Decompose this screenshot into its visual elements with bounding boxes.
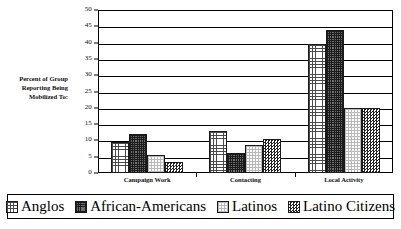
x-axis-tick-label: Contacting (230, 177, 261, 184)
bar-group (196, 10, 294, 173)
y-axis-tick-label: 45 (85, 23, 92, 30)
bar (147, 155, 165, 173)
bar (326, 30, 344, 173)
y-axis-tick-label: 10 (85, 137, 92, 144)
bar-chart (98, 10, 393, 173)
legend-swatch-icon (217, 201, 229, 213)
chart-legend: AnglosAfrican-AmericansLatinosLatino Cit… (7, 194, 394, 219)
bar (344, 108, 362, 173)
bar (165, 162, 183, 173)
legend-swatch-icon (288, 201, 300, 213)
y-axis-tick-label: 30 (85, 72, 92, 79)
x-axis-tick-label: Local Activity (324, 177, 363, 184)
y-axis-tick-label: 0 (88, 169, 92, 176)
bar (111, 142, 129, 173)
y-axis-tick-label: 15 (85, 121, 92, 128)
bar (129, 134, 147, 173)
legend-item[interactable]: Anglos (6, 199, 64, 214)
x-axis-tick-mark (196, 173, 197, 177)
x-axis-tick-mark (295, 173, 296, 177)
bar (209, 131, 227, 173)
legend-label: African-Americans (90, 199, 206, 214)
legend-label: Latino Citizens (303, 199, 395, 214)
legend-swatch-icon (6, 201, 18, 213)
legend-item[interactable]: African-Americans (75, 199, 206, 214)
bar (245, 145, 263, 173)
y-axis: 05101520253035404550 (0, 10, 98, 173)
x-axis: Campaign WorkContactingLocal Activity (98, 177, 393, 189)
bar (263, 139, 281, 173)
bars-layer (98, 10, 393, 173)
y-axis-tick-label: 25 (85, 88, 92, 95)
bar-group (98, 10, 196, 173)
legend-label: Latinos (232, 199, 277, 214)
y-axis-tick-label: 35 (85, 55, 92, 62)
y-axis-tick-label: 50 (85, 6, 92, 13)
x-axis-tick-label: Campaign Work (124, 177, 171, 184)
y-axis-tick-label: 40 (85, 39, 92, 46)
legend-swatch-icon (75, 201, 87, 213)
y-axis-tick-label: 5 (88, 153, 92, 160)
legend-label: Anglos (21, 199, 64, 214)
bar (308, 44, 326, 173)
legend-item[interactable]: Latino Citizens (288, 199, 395, 214)
legend-item[interactable]: Latinos (217, 199, 277, 214)
bar (362, 108, 380, 173)
bar (227, 153, 245, 173)
bar-group (295, 10, 393, 173)
y-axis-tick-label: 20 (85, 104, 92, 111)
